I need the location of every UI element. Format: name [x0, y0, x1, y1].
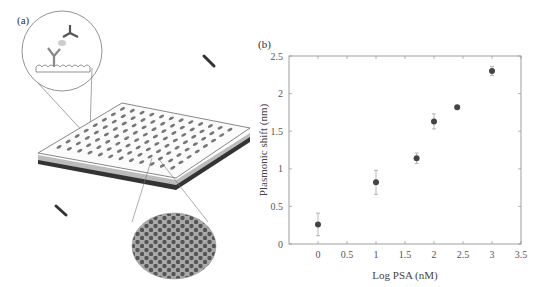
y-tick-label: 0.5 — [271, 201, 284, 212]
x-tick-label: 0 — [316, 249, 321, 260]
data-point — [373, 179, 379, 185]
y-tick-label: 1 — [278, 163, 283, 174]
x-tick-label: 1 — [374, 249, 379, 260]
data-point — [431, 118, 437, 124]
x-tick-label: 0.5 — [341, 249, 354, 260]
y-tick-label: 2 — [278, 88, 283, 99]
x-tick-label: 2 — [432, 249, 437, 260]
x-axis-title: Log PSA (nM) — [372, 269, 438, 282]
plot-frame — [289, 56, 521, 244]
y-tick-label: 0 — [278, 239, 283, 250]
data-point — [454, 104, 460, 110]
x-tick-label: 3.5 — [515, 249, 528, 260]
y-axis-title: Plasmonic shift (nm) — [257, 104, 270, 197]
data-point — [414, 155, 420, 161]
x-tick-label: 1.5 — [399, 249, 412, 260]
y-axis: 00.511.522.5 — [271, 51, 522, 250]
y-tick-label: 1.5 — [271, 126, 284, 137]
x-tick-label: 3 — [490, 249, 495, 260]
x-axis: 00.511.522.533.5 — [316, 56, 528, 260]
x-tick-label: 2.5 — [457, 249, 470, 260]
data-point — [315, 221, 321, 227]
data-point — [489, 68, 495, 74]
y-tick-label: 2.5 — [271, 51, 284, 62]
data-series — [315, 67, 495, 236]
scatter-chart: 00.511.522.533.5 00.511.522.5 Log PSA (n… — [0, 0, 545, 287]
